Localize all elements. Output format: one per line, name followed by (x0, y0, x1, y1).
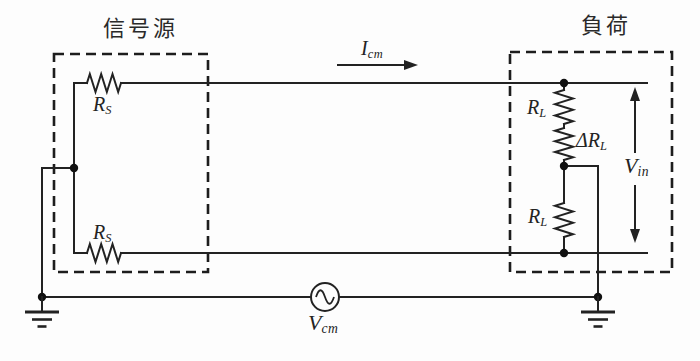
rl-bottom-subscript: L (540, 215, 547, 229)
rs-top-subscript: S (105, 103, 112, 117)
rl-top-label: RL (527, 96, 547, 118)
icm-symbol: I (361, 37, 368, 59)
resistor-rl-top (555, 90, 573, 124)
junction-dot-left (70, 164, 78, 172)
icm-subscript: cm (368, 47, 383, 61)
junction-dot-mid-right (560, 162, 568, 170)
rs-bottom-subscript: S (105, 231, 112, 245)
vin-symbol: V (624, 153, 637, 178)
wire-left-ground-branch (42, 168, 74, 297)
delta-rl-subscript: L (600, 139, 607, 153)
delta-rl-label: ΔRL (576, 129, 607, 151)
rl-bottom-symbol: R (528, 205, 540, 227)
rs-top-label: RS (93, 93, 112, 115)
junction-dot-top-right (560, 79, 568, 87)
vcm-subscript: cm (321, 321, 338, 336)
vin-label: Vin (624, 154, 649, 178)
rs-bottom-symbol: R (93, 221, 105, 243)
icm-arrowhead-icon (404, 60, 418, 70)
wire-left-top-branch (74, 83, 87, 168)
ground-icon-right (581, 297, 615, 327)
signal-source-dashed-box (54, 54, 208, 272)
rs-bottom-label: RS (93, 221, 112, 243)
wire-midtap-to-ground (564, 166, 598, 297)
vin-arrowhead-down-icon (630, 229, 640, 243)
junction-dot-bottom-right (560, 249, 568, 257)
sine-wave-icon (316, 290, 334, 304)
rl-bottom-label: RL (528, 205, 548, 227)
vcm-label: Vcm (308, 311, 338, 335)
vin-subscript: in (637, 164, 649, 179)
circuit-schematic-canvas (0, 0, 700, 361)
wire-left-bottom-branch (74, 168, 87, 253)
resistor-rs-top (87, 74, 121, 92)
ground-icon-left (25, 297, 59, 327)
signal-source-box-label: 信号源 (70, 17, 210, 41)
vcm-symbol: V (308, 310, 321, 335)
rl-top-subscript: L (539, 106, 546, 120)
load-box-label: 負荷 (536, 14, 676, 38)
circuit-diagram: 信号源 負荷 Icm RS RS RL ΔRL RL Vin Vcm (0, 0, 700, 361)
icm-label: Icm (361, 37, 383, 59)
resistor-rs-bottom (87, 244, 121, 262)
delta-rl-symbol: ΔR (576, 129, 600, 151)
resistor-delta-rl (555, 128, 573, 160)
rs-top-symbol: R (93, 93, 105, 115)
resistor-rl-bottom (555, 203, 573, 237)
rl-top-symbol: R (527, 96, 539, 118)
